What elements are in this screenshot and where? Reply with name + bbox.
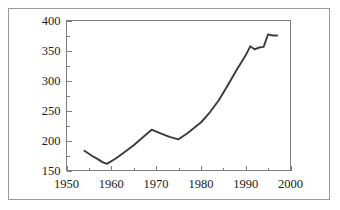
x-tick-label: 2000 [278,177,303,191]
data-series-line [84,34,277,164]
y-tick-label: 350 [42,44,61,58]
y-tick-label: 250 [42,104,61,118]
y-tick-label: 400 [42,14,61,28]
x-tick-label: 1950 [54,177,79,191]
x-tick-label: 1970 [144,177,169,191]
plot-frame [67,21,291,171]
y-tick-label: 300 [42,74,61,88]
chart-figure: 150200250300350400 195019601970198019902… [0,0,340,210]
x-tick-label: 1980 [188,177,213,191]
y-axis-tick-labels: 150200250300350400 [42,14,61,178]
x-axis-ticks [68,166,292,171]
x-tick-label: 1990 [233,177,258,191]
y-tick-label: 200 [42,134,61,148]
y-axis-ticks [67,22,72,172]
x-tick-label: 1960 [99,177,124,191]
line-chart: 150200250300350400 195019601970198019902… [0,0,340,210]
axis-frame-path [67,21,291,171]
x-axis-tick-labels: 195019601970198019902000 [54,177,303,191]
